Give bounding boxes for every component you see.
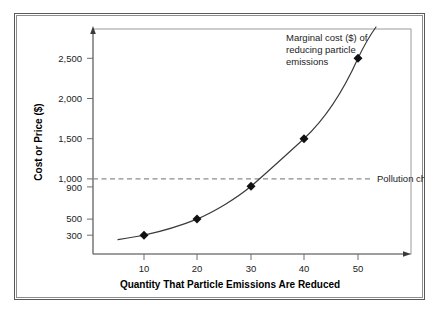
y-tick-label-900: 900 — [66, 182, 82, 193]
y-tick-marks — [87, 58, 93, 235]
x-tick-label-50: 50 — [353, 263, 364, 274]
x-axis-title: Quantity That Particle Emissions Are Red… — [120, 279, 340, 290]
y-tick-label-300: 300 — [66, 230, 82, 241]
x-tick-label-10: 10 — [139, 263, 150, 274]
plot-area-box — [93, 29, 411, 254]
curve-annotation-line3: emissions — [286, 56, 328, 67]
x-tick-label-20: 20 — [192, 263, 203, 274]
figure-frame: 2,500 2,000 1,500 1,000 900 500 300 10 2… — [14, 13, 425, 300]
x-tick-marks — [144, 254, 358, 260]
y-tick-label-2500: 2,500 — [58, 53, 82, 64]
y-tick-label-1500: 1,500 — [58, 133, 82, 144]
y-tick-label-500: 500 — [66, 213, 82, 224]
y-axis-title: Cost or Price ($) — [33, 103, 44, 180]
marginal-cost-chart: 2,500 2,000 1,500 1,000 900 500 300 10 2… — [15, 14, 424, 299]
pollution-charge-label: Pollution charge — [377, 173, 424, 184]
curve-annotation-line2: reducing particle — [286, 44, 356, 55]
y-tick-label-2000: 2,000 — [58, 93, 82, 104]
x-tick-label-40: 40 — [299, 263, 310, 274]
x-tick-label-30: 30 — [246, 263, 257, 274]
figure-root: 2,500 2,000 1,500 1,000 900 500 300 10 2… — [0, 0, 438, 313]
curve-annotation-line1: Marginal cost ($) of — [286, 32, 368, 43]
